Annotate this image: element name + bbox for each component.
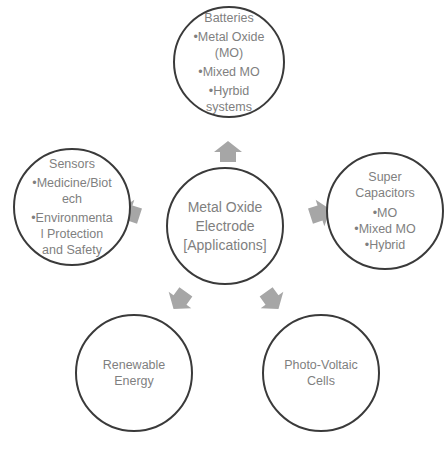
node-sensors: Sensors •Medicine/Biot ech •Environmenta…	[13, 148, 131, 266]
arrow-up-icon	[214, 141, 242, 162]
node-item: (MO)	[215, 45, 243, 61]
node-item: •MO	[373, 205, 398, 221]
node-item: •Hyrbid	[209, 83, 250, 99]
node-title-2: Cells	[307, 373, 335, 389]
node-title-2: Capacitors	[355, 185, 415, 201]
center-node: Metal Oxide Electrode [Applications]	[166, 167, 284, 285]
node-item: •Metal Oxide	[193, 29, 264, 45]
node-item: •Medicine/Biot	[32, 175, 111, 191]
arrow-down-right-icon	[255, 284, 290, 317]
node-super-capacitors: Super Capacitors •MO •Mixed MO •Hybrid	[326, 152, 444, 270]
node-batteries: Batteries •Metal Oxide (MO) •Mixed MO •H…	[173, 6, 285, 118]
node-item: l Protection	[41, 226, 104, 242]
center-line-1: Metal Oxide	[188, 198, 263, 217]
node-title: Batteries	[204, 10, 253, 26]
node-renewable-energy: Renewable Energy	[75, 314, 193, 432]
node-title-2: Energy	[114, 373, 154, 389]
center-line-3: [Applications]	[183, 236, 266, 255]
node-title: Super	[368, 169, 401, 185]
node-item: •Environmenta	[31, 210, 113, 226]
node-title: Renewable	[103, 357, 166, 373]
node-item: •Hybrid	[365, 237, 406, 253]
node-item: •Mixed MO	[354, 221, 415, 237]
node-title: Sensors	[49, 156, 95, 172]
center-line-2: Electrode	[195, 217, 254, 236]
node-item: •Mixed MO	[198, 64, 259, 80]
node-photo-voltaic: Photo-Voltaic Cells	[262, 314, 380, 432]
node-item: ech	[62, 191, 82, 207]
arrow-down-left-icon	[162, 284, 197, 317]
node-item: systems	[206, 99, 252, 115]
node-title: Photo-Voltaic	[284, 357, 358, 373]
node-item: and Safety	[42, 242, 102, 258]
